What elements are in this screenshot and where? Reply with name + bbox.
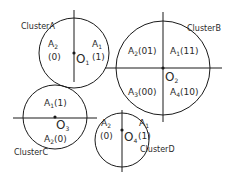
cluster-a-center-label: O1 bbox=[76, 52, 89, 66]
cluster-d-region-a1: A1 bbox=[139, 118, 149, 129]
cluster-a-region-a1-code: (1) bbox=[92, 52, 105, 62]
cluster-c: A1(1) A2(0) O3 ClusterC bbox=[13, 85, 97, 157]
cluster-d-name: ClusterD bbox=[140, 145, 175, 154]
cluster-d-center-label: O4 bbox=[124, 130, 137, 144]
cluster-a-region-a2-code: (0) bbox=[48, 52, 61, 62]
cluster-d-region-a2: A2 bbox=[101, 118, 111, 129]
cluster-a: ClusterA A2 (0) A1 (1) O1 bbox=[21, 10, 109, 88]
cluster-d-region-a1-code: (1) bbox=[138, 131, 151, 141]
cluster-b: ClusterB A2(01) A1(11) A3(00) A4(10) O2 bbox=[105, 12, 222, 122]
cluster-a-region-a1: A1 bbox=[92, 39, 102, 50]
cluster-c-region-a2: A2(0) bbox=[44, 134, 67, 145]
cluster-b-region-a3: A3(00) bbox=[128, 87, 156, 98]
cluster-a-name: ClusterA bbox=[21, 22, 55, 31]
cluster-a-region-a2: A2 bbox=[48, 39, 58, 50]
cluster-b-region-a2: A2(01) bbox=[128, 46, 156, 57]
cluster-c-center-label: O3 bbox=[56, 118, 69, 132]
cluster-c-region-a1: A1(1) bbox=[44, 98, 67, 109]
cluster-b-center-label: O2 bbox=[165, 70, 178, 84]
cluster-b-name: ClusterB bbox=[187, 24, 221, 33]
cluster-d-region-a2-code: (0) bbox=[100, 131, 113, 141]
cluster-c-name: ClusterC bbox=[14, 148, 48, 157]
cluster-b-region-a1: A1(11) bbox=[170, 46, 198, 57]
cluster-b-region-a4: A4(10) bbox=[170, 87, 198, 98]
cluster-diagram: ClusterA A2 (0) A1 (1) O1 ClusterB A2(01… bbox=[0, 0, 235, 174]
